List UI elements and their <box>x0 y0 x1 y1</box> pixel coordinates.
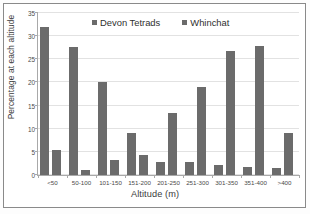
chart-figure: Percentage at each altitude Altitude (m)… <box>0 0 310 214</box>
bar-group <box>154 13 183 175</box>
x-tick-mark <box>96 175 97 178</box>
x-tick-mark <box>212 175 213 178</box>
y-tick-label: 30 <box>28 33 35 40</box>
bar <box>214 165 223 175</box>
x-tick-label: 201-250 <box>154 179 183 186</box>
bar-group <box>270 13 299 175</box>
bar <box>81 170 90 175</box>
x-tick-label: 50-100 <box>67 179 96 186</box>
bar <box>243 167 252 175</box>
y-tick-label: 20 <box>28 79 35 86</box>
y-tick-label: 35 <box>28 10 35 17</box>
bar-group <box>96 13 125 175</box>
x-axis-title: Altitude (m) <box>0 189 310 199</box>
bar <box>284 133 293 175</box>
x-tick-label: 351-400 <box>241 179 270 186</box>
bar-series-layer <box>38 13 299 175</box>
x-tick-mark <box>154 175 155 178</box>
x-tick-mark <box>241 175 242 178</box>
bar-group <box>241 13 270 175</box>
bar <box>69 47 78 175</box>
bar-group <box>38 13 67 175</box>
bar <box>110 160 119 175</box>
x-tick-mark <box>125 175 126 178</box>
bar <box>127 133 136 175</box>
y-tick-label: 15 <box>28 102 35 109</box>
plot-area: 05101520253035 <5050-100101-150151-20020… <box>37 13 299 176</box>
x-tick-mark <box>67 175 68 178</box>
bar <box>272 168 281 175</box>
bar <box>139 155 148 175</box>
legend-swatch-icon <box>92 20 97 25</box>
y-tick-label: 0 <box>31 172 35 179</box>
x-tick-label: <50 <box>38 179 67 186</box>
legend-item-whinchat: Whinchat <box>182 17 229 28</box>
y-tick-label: 5 <box>31 148 35 155</box>
x-tick-label: 151-200 <box>125 179 154 186</box>
bar <box>255 46 264 175</box>
x-tick-mark <box>270 175 271 178</box>
y-tick-label: 25 <box>28 56 35 63</box>
x-tick-label: 251-300 <box>183 179 212 186</box>
x-tick-label: 301-350 <box>212 179 241 186</box>
legend-label: Whinchat <box>190 17 229 28</box>
x-tick-label: >400 <box>270 179 299 186</box>
y-tick-label: 10 <box>28 125 35 132</box>
bar-group <box>125 13 154 175</box>
x-tick-mark <box>299 175 300 178</box>
legend-item-devon-tetrads: Devon Tetrads <box>92 17 160 28</box>
bar <box>156 162 165 175</box>
bar-group <box>212 13 241 175</box>
x-tick-mark <box>38 175 39 178</box>
bar <box>226 51 235 175</box>
bar-group <box>67 13 96 175</box>
chart-legend: Devon Tetrads Whinchat <box>92 17 229 28</box>
x-tick-mark <box>183 175 184 178</box>
bar <box>168 113 177 175</box>
bar <box>40 27 49 175</box>
y-axis-title: Percentage at each altitude <box>6 2 16 132</box>
legend-label: Devon Tetrads <box>100 17 160 28</box>
x-tick-label: 101-150 <box>96 179 125 186</box>
bar <box>185 162 194 175</box>
bar-group <box>183 13 212 175</box>
bar <box>52 150 61 175</box>
legend-swatch-icon <box>182 20 187 25</box>
bar <box>98 82 107 175</box>
bar <box>197 87 206 175</box>
